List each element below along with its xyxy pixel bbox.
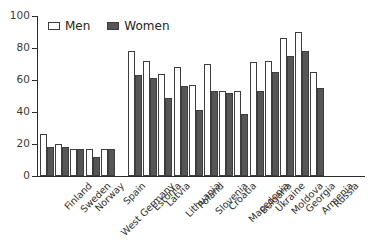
bar-group [219,16,233,176]
bar-men [204,64,211,176]
plot-area [38,16,365,176]
bar-women [257,91,264,176]
legend-label-men: Men [65,19,90,33]
bar-men [55,144,62,176]
bar-women [93,157,100,176]
bar-women [150,78,157,176]
bar-men [295,32,302,176]
bar-group [265,16,279,176]
legend-entry-women: Women [107,19,169,33]
bar-group [295,16,309,176]
bar-men [143,61,150,176]
bar-group [55,16,69,176]
y-axis-tick-mark [32,176,37,177]
bar-group [204,16,218,176]
legend-label-women: Women [124,19,169,33]
y-axis-tick-label: 40 [0,105,30,117]
bar-men [101,149,108,176]
bar-group [86,16,100,176]
bar-women [47,147,54,176]
x-axis-label: Spain [121,180,148,207]
bar-men [250,62,257,176]
bar-group [174,16,188,176]
bar-men [189,85,196,176]
bar-women [226,93,233,176]
bar-women [317,88,324,176]
bar-group [234,16,248,176]
bar-men [219,91,226,176]
bar-women [62,147,69,176]
bar-group [189,16,203,176]
bar-women [181,86,188,176]
x-axis-line [37,176,365,177]
legend-entry-men: Men [48,19,90,33]
bar-group [143,16,157,176]
bar-men [265,61,272,176]
bar-group [128,16,142,176]
legend-swatch-women-icon [107,22,119,30]
bar-men [158,74,165,176]
bar-women [196,110,203,176]
bar-men [280,38,287,176]
bar-group [70,16,84,176]
y-axis-tick-mark [32,144,37,145]
bar-group [250,16,264,176]
bar-women [302,51,309,176]
bar-women [165,98,172,176]
y-axis-tick-mark [32,48,37,49]
bar-women [77,149,84,176]
bar-men [40,134,47,176]
y-axis-tick-label: 0 [0,169,30,181]
bar-men [174,67,181,176]
bar-women [241,114,248,176]
y-axis-tick-label: 20 [0,137,30,149]
y-axis-tick-mark [32,112,37,113]
bar-group [280,16,294,176]
y-axis-tick-mark [32,80,37,81]
bar-women [135,75,142,176]
bar-group [40,16,54,176]
bar-women [211,91,218,176]
bar-women [287,56,294,176]
y-axis-tick-mark [32,16,37,17]
bar-men [70,149,77,176]
y-axis-tick-label: 60 [0,73,30,85]
bar-women [272,72,279,176]
chart-legend: Men Women [48,19,170,33]
bar-men [310,72,317,176]
bar-group [310,16,324,176]
bar-men [128,51,135,176]
y-axis-tick-label: 100 [0,9,30,21]
bar-group [158,16,172,176]
legend-swatch-men-icon [48,22,60,30]
bar-chart: 020406080100 FinlandSwedenNorwayWest Ger… [0,0,369,252]
bar-men [234,91,241,176]
bar-men [86,149,93,176]
bar-group [101,16,115,176]
y-axis-tick-label: 80 [0,41,30,53]
bar-women [108,149,115,176]
